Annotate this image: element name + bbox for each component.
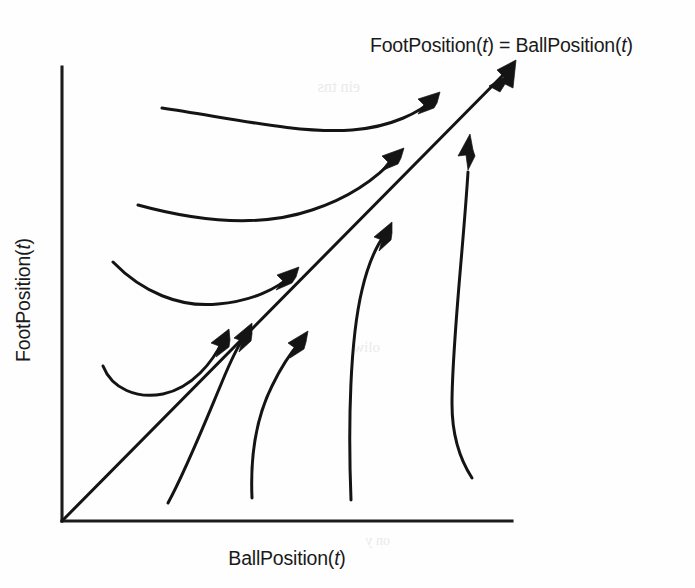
trajectory-1-path	[162, 99, 434, 131]
trajectory-5-below	[168, 323, 252, 503]
trajectory-1-arrowhead	[418, 92, 440, 114]
trajectory-2-arrowhead	[381, 148, 404, 171]
page-bleed-through: ein tns oliw on y	[318, 78, 390, 548]
trajectory-5-path	[168, 334, 246, 503]
svg-text:oliw: oliw	[353, 339, 380, 355]
identity-label-part1: FootPosition(	[370, 34, 483, 56]
trajectory-1-above	[162, 92, 440, 131]
trajectory-8-below	[452, 134, 475, 478]
trajectory-4-above	[103, 329, 230, 395]
trajectory-4-path	[103, 340, 223, 395]
identity-label-part2: ) = BallPosition(	[488, 34, 622, 56]
trajectories-above-diagonal	[103, 92, 440, 395]
identity-line-label: FootPosition(t) = BallPosition(t)	[370, 34, 633, 56]
figure-root: ein tns oliw on y	[0, 0, 695, 588]
phase-portrait-svg: ein tns oliw on y	[0, 0, 695, 588]
x-axis-label-suffix: )	[339, 547, 345, 569]
trajectory-8-arrowhead	[458, 134, 475, 170]
svg-text:ein tns: ein tns	[318, 78, 360, 95]
trajectory-3-above	[113, 262, 299, 305]
trajectory-2-above	[138, 148, 404, 221]
trajectories-below-diagonal	[168, 134, 475, 503]
trajectory-2-path	[138, 156, 397, 221]
y-axis-label-suffix: )	[12, 238, 34, 244]
trajectory-7-path	[350, 233, 386, 500]
trajectory-7-below	[350, 222, 392, 500]
x-axis-label-prefix: BallPosition(	[228, 547, 334, 569]
y-axis-label-prefix: FootPosition(	[12, 249, 34, 362]
trajectory-6-below	[252, 331, 308, 498]
svg-text:on y: on y	[366, 533, 391, 548]
trajectory-3-path	[113, 262, 292, 305]
y-axis-label: FootPosition(t)	[12, 238, 34, 362]
trajectory-6-path	[252, 341, 301, 498]
x-axis-label: BallPosition(t)	[228, 547, 345, 569]
trajectory-8-path	[452, 172, 472, 478]
identity-line	[62, 70, 508, 521]
identity-label-part3: )	[626, 34, 632, 56]
